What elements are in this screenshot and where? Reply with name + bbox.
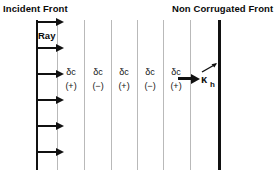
arrow-shaft: [38, 47, 58, 49]
ray-arrow-2: [38, 44, 64, 53]
ray-arrow-5: [38, 122, 64, 131]
ray-arrow-1: [38, 18, 64, 27]
lamella-label-4: δc(−): [137, 66, 163, 93]
delta-c-symbol: δc: [111, 66, 137, 80]
non-corrugated-front-line: [218, 20, 221, 170]
propagation-arrow-icon: [178, 74, 200, 84]
arrow-head: [56, 96, 64, 104]
kappa-subscript: h: [210, 80, 215, 89]
wavevector-kappa-h: κ h: [200, 62, 224, 94]
delta-c-sign: (+): [111, 80, 137, 94]
delta-c-sign: (−): [85, 80, 111, 94]
lamella-label-3: δc(+): [111, 66, 137, 93]
lamella-separator-4: [137, 20, 138, 170]
delta-c-symbol: δc: [58, 66, 84, 80]
lamella-separator-6: [190, 20, 191, 170]
ray-label: Ray: [38, 30, 55, 41]
delta-c-symbol: δc: [137, 66, 163, 80]
figure-canvas: Incident Front Non Corrugated Front Ray …: [0, 0, 275, 173]
arrow-shaft: [38, 125, 58, 127]
delta-c-sign: (+): [58, 80, 84, 94]
arrow-head: [56, 148, 64, 156]
arrow-head: [56, 44, 64, 52]
arrow-head: [56, 18, 64, 26]
arrow-shaft: [38, 73, 58, 75]
incident-front-title: Incident Front: [3, 3, 68, 14]
lamella-separator-2: [84, 20, 85, 170]
arrow-head: [56, 122, 64, 130]
non-corrugated-front-title: Non Corrugated Front: [172, 3, 273, 14]
arrow-head: [191, 74, 200, 84]
arrow-shaft: [38, 21, 58, 23]
lamella-separator-5: [163, 20, 164, 170]
delta-c-sign: (−): [137, 80, 163, 94]
arrow-shaft: [38, 151, 58, 153]
kappa-symbol: κ: [201, 73, 207, 86]
lamella-separator-3: [111, 20, 112, 170]
delta-c-symbol: δc: [85, 66, 111, 80]
lamella-label-2: δc(−): [85, 66, 111, 93]
ray-arrow-4: [38, 96, 64, 105]
ray-arrow-6: [38, 148, 64, 157]
lamella-label-1: δc(+): [58, 66, 84, 93]
arrow-shaft: [38, 99, 58, 101]
